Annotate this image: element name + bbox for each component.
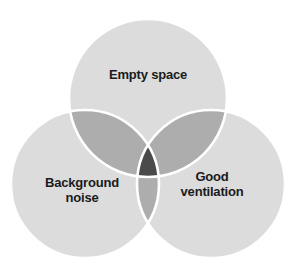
venn-diagram-figure: Empty space Background noise Good ventil…: [0, 0, 297, 275]
venn-diagram-graphic: [0, 0, 297, 275]
